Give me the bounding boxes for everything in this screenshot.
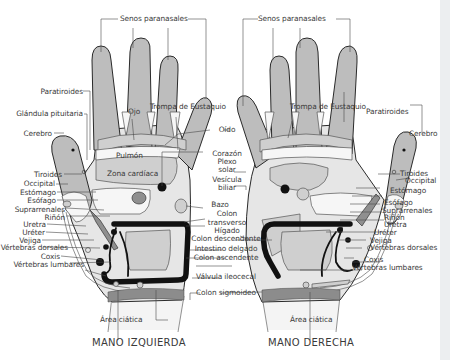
left-hand [52,38,212,332]
label-cerebro-left: Cerebro [0,130,52,138]
label-paratiroides-left: Paratiroides [30,88,83,96]
label-ojo-left: Ojo [128,108,140,116]
label-senos-paranasales-left: Senos paranasales [120,15,188,23]
label-trompa-eustaquio-right: Trompa de Eustaquio [290,103,366,111]
label-paratiroides-right: Paratiroides [366,108,409,116]
label-senos-paranasales-right: Senos paranasales [258,15,326,23]
right-finger-ring [296,38,322,148]
label-vertebras-dorsales-right: Vértebras dorsales [370,244,437,252]
label-glandula-pituitaria-left: Glándula pituitaria [0,110,83,118]
label-trompa-eustaquio-left: Trompa de Eustaquio [150,103,226,111]
caption-mano-izquierda: MANO IZQUIERDA [92,337,186,348]
label-vertebras-lumbares-right: Vértebras lumbares [352,264,423,272]
label-colon: Colon [205,210,249,218]
label-oido: Oído [210,126,244,134]
label-biliar: biliar [205,184,249,192]
label-cerebro-right: Cerebro [409,130,438,138]
label-colon-descendente: Colon descendente [190,235,262,243]
label-bazo: Bazo [205,201,235,209]
label-valvula-ileocecal: Válvula ileocecal [190,273,262,281]
label-estomago-right: Estómago [390,187,426,195]
label-zona-cardiaca-left: Zona cardíaca [107,170,158,178]
label-solar: solar [205,166,249,174]
label-esofago-left: Esófago [0,197,56,205]
label-tiroides-left: Tiroides [0,171,62,179]
label-occipital-right: Occipital [405,177,436,185]
label-intestino-delgado: Intestino delgado [190,245,262,253]
label-area-ciatica-right: Área ciática [290,316,332,324]
label-pulmon-left: Pulmón [116,152,143,160]
label-occipital-left: Occipital [0,180,55,188]
label-colon-ascendente: Colon ascendente [190,254,262,262]
label-vertebras-lumbares-left: Vértebras lumbares [0,261,84,269]
right-hand [237,38,416,332]
caption-mano-derecha: MANO DERECHA [268,337,354,348]
label-area-ciatica-left: Área ciática [100,316,142,324]
left-finger-ring [126,38,152,150]
label-vertebras-dorsales-left: Vértebras dorsales [0,244,68,252]
label-colon-sigmoideo: Colon sigmoideo [190,289,262,297]
